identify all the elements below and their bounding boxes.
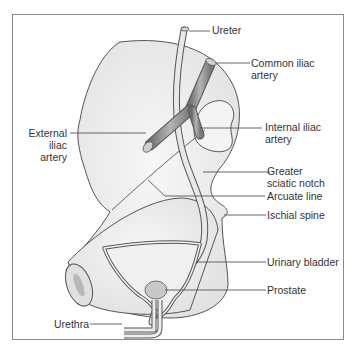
label-external-iliac-artery: External iliac artery: [15, 127, 67, 163]
label-ischial-spine: Ischial spine: [267, 209, 325, 221]
prostate: [145, 281, 167, 299]
label-ureter: Ureter: [212, 24, 241, 36]
label-arcuate-line: Arcuate line: [267, 190, 322, 202]
label-urethra: Urethra: [54, 318, 89, 330]
label-internal-iliac-artery: Internal iliac artery: [265, 121, 321, 145]
label-urinary-bladder: Urinary bladder: [267, 256, 339, 268]
label-greater-sciatic-notch: Greater sciatic notch: [267, 165, 325, 189]
label-prostate: Prostate: [267, 284, 306, 296]
label-common-iliac-artery: Common iliac artery: [251, 57, 315, 81]
